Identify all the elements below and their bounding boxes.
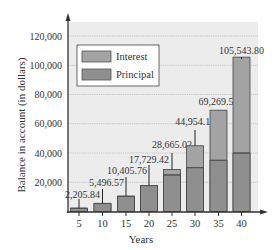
legend-swatch-interest bbox=[82, 51, 111, 62]
x-axis-ticks: 510152025303540 bbox=[76, 212, 246, 229]
x-tick-label: 5 bbox=[76, 218, 81, 229]
x-axis-label: Years bbox=[129, 233, 154, 245]
y-axis-ticks: 20,00040,00060,00080,000100,000120,000 bbox=[30, 31, 63, 188]
y-tick-label: 100,000 bbox=[30, 60, 63, 71]
x-tick-label: 20 bbox=[144, 218, 155, 229]
y-axis-arrow-icon bbox=[66, 13, 71, 21]
x-tick-label: 40 bbox=[236, 218, 247, 229]
bar-total-label: 28,665.02 bbox=[152, 139, 192, 150]
chart-container: 20,00040,00060,00080,000100,000120,000 2… bbox=[0, 0, 278, 250]
bar-total-label: 2,205.84 bbox=[65, 189, 100, 200]
bar-principal bbox=[94, 203, 111, 211]
y-tick-label: 120,000 bbox=[30, 31, 63, 42]
bar-total-label: 44,954.11 bbox=[175, 116, 215, 127]
bar-principal bbox=[233, 153, 250, 212]
legend-label-principal: Principal bbox=[116, 69, 154, 80]
bar-total-label: 5,496.57 bbox=[89, 177, 124, 188]
bar-principal bbox=[118, 196, 135, 211]
bar-total-label: 10,405.76 bbox=[107, 165, 147, 176]
bar-principal bbox=[210, 160, 227, 211]
x-tick-label: 35 bbox=[213, 218, 224, 229]
x-axis-arrow-icon bbox=[260, 210, 268, 215]
y-tick-label: 80,000 bbox=[35, 89, 63, 100]
bar-principal bbox=[164, 175, 181, 212]
y-axis-label: Balance in account (in dollars) bbox=[15, 57, 28, 192]
y-tick-label: 20,000 bbox=[35, 177, 63, 188]
legend-swatch-principal bbox=[82, 69, 111, 80]
bar-principal bbox=[141, 186, 158, 212]
x-tick-label: 25 bbox=[167, 218, 178, 229]
y-tick-label: 60,000 bbox=[35, 118, 63, 129]
x-tick-label: 30 bbox=[190, 218, 201, 229]
x-tick-label: 15 bbox=[121, 218, 132, 229]
y-tick-label: 40,000 bbox=[35, 148, 63, 159]
bar-total-label: 69,269.50 bbox=[199, 96, 239, 107]
balance-bar-chart: 20,00040,00060,00080,000100,000120,000 2… bbox=[0, 0, 278, 250]
x-tick-label: 10 bbox=[97, 218, 108, 229]
bar-total-label: 17,729.42 bbox=[129, 154, 169, 165]
legend: Interest Principal bbox=[77, 45, 159, 86]
bar-principal bbox=[187, 168, 204, 212]
legend-label-interest: Interest bbox=[116, 51, 148, 62]
bar-total-label: 105,543.80 bbox=[219, 45, 264, 56]
